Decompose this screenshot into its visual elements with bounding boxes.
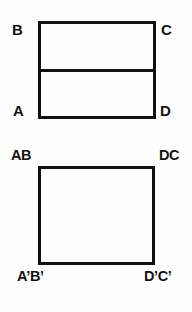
bottom-rectangle bbox=[38, 166, 155, 265]
label-vertex-d-prime-c-prime: D’C’ bbox=[144, 269, 171, 284]
label-vertex-c: C bbox=[161, 22, 172, 37]
label-vertex-ab: AB bbox=[11, 148, 31, 163]
diagram-canvas: B C A D AB DC A’B’ D’C’ bbox=[0, 0, 192, 312]
label-vertex-dc: DC bbox=[159, 148, 179, 163]
label-vertex-b: B bbox=[12, 22, 23, 37]
label-vertex-a-prime-b-prime: A’B’ bbox=[17, 269, 44, 284]
top-rectangle-divider-line bbox=[38, 69, 156, 72]
label-vertex-a: A bbox=[13, 103, 24, 118]
label-vertex-d: D bbox=[160, 103, 171, 118]
